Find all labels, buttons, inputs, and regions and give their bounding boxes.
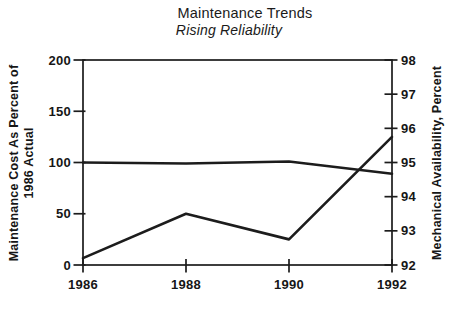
right-axis-tick-label: 92 (401, 258, 431, 273)
right-axis-tick-label: 94 (401, 189, 431, 204)
right-axis-tick-label: 97 (401, 87, 431, 102)
x-axis-tick-label: 1988 (164, 277, 208, 292)
series-line-right-axis (83, 137, 392, 258)
series-line-left-axis (83, 161, 392, 173)
right-axis-tick-label: 93 (401, 223, 431, 238)
x-axis-tick-label: 1990 (267, 277, 311, 292)
left-axis-tick-label: 200 (30, 53, 71, 68)
right-axis-tick-label: 96 (401, 121, 431, 136)
right-axis-tick-label: 98 (401, 53, 431, 68)
left-axis-tick-label: 50 (30, 206, 71, 221)
left-axis-tick-label: 0 (30, 258, 71, 273)
left-axis-tick-label: 150 (30, 104, 71, 119)
right-axis-tick-label: 95 (401, 155, 431, 170)
left-axis-tick-label: 100 (30, 155, 71, 170)
x-axis-tick-label: 1986 (61, 277, 105, 292)
x-axis-tick-label: 1992 (370, 277, 414, 292)
chart-container: Maintenance Trends Rising Reliability Ma… (0, 0, 454, 311)
